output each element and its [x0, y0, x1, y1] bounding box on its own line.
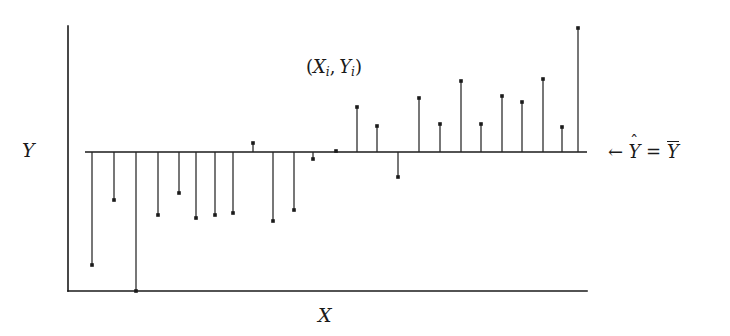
ybar-symbol: Y	[667, 141, 679, 161]
hat-accent: ˆ	[630, 134, 638, 151]
data-point-marker	[438, 122, 442, 126]
residual-stem-plot-figure: Y X (Xi, Yi) ← ˆY = Y	[0, 0, 730, 336]
data-point-marker	[334, 149, 338, 153]
data-point-marker	[271, 219, 275, 223]
data-point-marker	[500, 94, 504, 98]
data-point-marker	[479, 122, 483, 126]
y-axis-label: Y	[22, 141, 35, 160]
left-arrow-icon: ←	[608, 141, 623, 162]
data-point-marker	[520, 100, 524, 104]
data-point-marker	[355, 105, 359, 109]
paren-open: (	[306, 56, 313, 77]
data-point-marker	[576, 26, 580, 30]
data-point-marker	[251, 141, 255, 145]
data-point-marker	[177, 191, 181, 195]
point-y-symbol: Y	[339, 56, 351, 77]
equals-sign: =	[646, 141, 661, 162]
paren-close: )	[355, 56, 362, 77]
point-comma: ,	[330, 56, 336, 77]
data-point-marker	[194, 216, 198, 220]
data-point-marker	[112, 198, 116, 202]
data-point-marker	[311, 157, 315, 161]
fitted-value-annotation: ← ˆY = Y	[608, 141, 679, 161]
data-point-marker	[396, 175, 400, 179]
data-point-annotation: (Xi, Yi)	[306, 58, 362, 79]
data-point-marker	[213, 213, 217, 217]
data-point-marker	[90, 263, 94, 267]
data-point-marker	[134, 289, 138, 293]
data-point-marker	[156, 213, 160, 217]
data-point-marker	[231, 211, 235, 215]
data-point-marker	[375, 124, 379, 128]
point-x-symbol: X	[313, 56, 326, 77]
plot-canvas	[0, 0, 730, 336]
x-axis-label: X	[318, 306, 332, 325]
data-point-marker	[459, 79, 463, 83]
data-point-marker	[292, 208, 296, 212]
data-point-marker	[560, 125, 564, 129]
data-point-marker	[541, 77, 545, 81]
data-point-marker	[417, 96, 421, 100]
